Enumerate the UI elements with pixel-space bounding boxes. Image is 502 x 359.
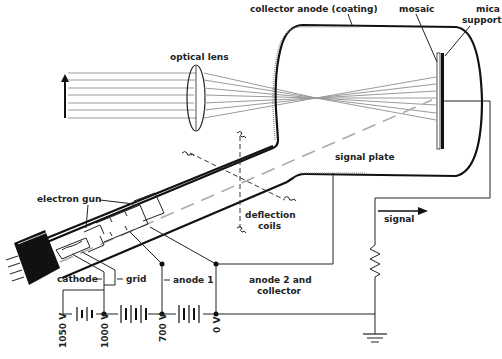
cathode-grid-circuit	[63, 252, 375, 314]
object-arrow-icon	[61, 74, 69, 118]
coil-top-icon	[237, 132, 246, 139]
mosaic-plate	[437, 53, 444, 149]
battery-700-0	[176, 304, 203, 324]
tube-envelope	[40, 25, 482, 278]
label-electron-gun: electron gun	[37, 194, 101, 204]
incoming-light-rays	[68, 73, 196, 118]
anode1-circuit	[130, 232, 165, 314]
focused-light-rays	[204, 73, 436, 120]
label-mica-support-2: support	[462, 15, 502, 25]
voltage-700: 700 V	[158, 313, 168, 342]
signal-arrow-icon	[418, 207, 428, 215]
coil-right-icon	[284, 197, 296, 202]
label-coils: coils	[258, 221, 281, 231]
battery-1050-1000	[72, 306, 96, 322]
label-cathode: cathode	[57, 274, 98, 284]
label-mica-support-1: mica	[476, 4, 500, 14]
voltage-0: 0 V	[212, 317, 222, 333]
battery-1000-700	[118, 304, 148, 324]
anode2-circuit	[150, 173, 333, 314]
label-grid: grid	[126, 274, 146, 284]
label-optical-lens: optical lens	[170, 52, 229, 62]
coil-bottom-icon	[237, 227, 246, 234]
label-collector: collector	[257, 286, 302, 296]
signal-circuit	[363, 101, 490, 342]
label-signal-plate: signal plate	[335, 152, 395, 162]
iconoscope-diagram: optical lens collector anode (coating) m…	[0, 0, 502, 359]
coil-left-icon	[182, 152, 194, 157]
label-mosaic: mosaic	[399, 4, 434, 14]
voltage-1000: 1000 V	[100, 313, 110, 348]
label-collector-anode: collector anode (coating)	[250, 4, 378, 14]
label-deflection: deflection	[245, 210, 296, 220]
optical-lens	[187, 65, 205, 131]
tube-base	[6, 230, 60, 285]
voltage-1050: 1050 V	[58, 313, 68, 348]
label-signal: signal	[384, 214, 414, 224]
label-anode2: anode 2 and	[249, 275, 312, 285]
label-anode1: anode 1	[173, 275, 214, 285]
